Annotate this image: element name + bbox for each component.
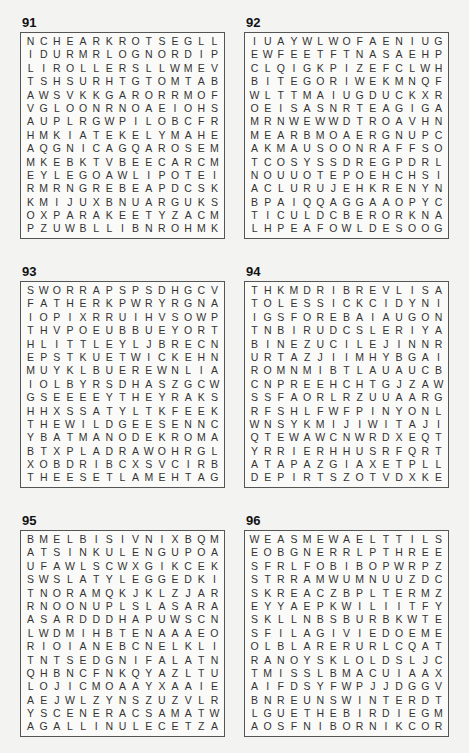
grid-letter: P bbox=[274, 471, 287, 484]
grid-letter: T bbox=[142, 405, 155, 418]
grid-letter: T bbox=[24, 75, 37, 88]
grid-letter: N bbox=[274, 115, 287, 128]
grid-letter: N bbox=[261, 378, 274, 391]
grid-letter: H bbox=[432, 62, 445, 75]
grid-letter: A bbox=[274, 129, 287, 142]
grid-letter: T bbox=[379, 533, 392, 546]
grid-letter: Z bbox=[340, 471, 353, 484]
grid-letter: F bbox=[90, 667, 103, 680]
grid-letter: M bbox=[314, 573, 327, 586]
grid-letter: Y bbox=[142, 667, 155, 680]
grid-letter: Y bbox=[103, 694, 116, 707]
grid-letter: Z bbox=[406, 378, 419, 391]
grid-letter: M bbox=[248, 129, 261, 142]
grid-letter: R bbox=[77, 115, 90, 128]
grid-letter: L bbox=[116, 600, 129, 613]
grid-letter: L bbox=[208, 35, 221, 48]
grid-letter: E bbox=[327, 169, 340, 182]
grid-letter: J bbox=[366, 680, 379, 693]
grid-letter: E bbox=[90, 471, 103, 484]
grid-letter: R bbox=[182, 445, 195, 458]
grid-letter: W bbox=[248, 89, 261, 102]
grid-letter: I bbox=[63, 311, 76, 324]
grid-letter: Y bbox=[314, 680, 327, 693]
grid-letter: S bbox=[287, 667, 300, 680]
grid-letter: A bbox=[90, 209, 103, 222]
puzzle-number: 94 bbox=[246, 263, 449, 281]
grid-letter: A bbox=[182, 680, 195, 693]
grid-letter: T bbox=[90, 156, 103, 169]
grid-letter: G bbox=[287, 546, 300, 559]
grid-letter: S bbox=[274, 720, 287, 733]
grid-letter: I bbox=[432, 351, 445, 364]
grid-letter: U bbox=[103, 364, 116, 377]
grid-letter: I bbox=[116, 533, 129, 546]
letter-grid: BMELBISIVNIXBQMATSINKULENGUPOAUFAWLSCWXG… bbox=[20, 530, 225, 737]
grid-letter: L bbox=[116, 573, 129, 586]
grid-letter: R bbox=[77, 458, 90, 471]
grid-letter: Y bbox=[24, 431, 37, 444]
grid-letter: U bbox=[90, 351, 103, 364]
grid-letter: X bbox=[50, 405, 63, 418]
grid-letter: I bbox=[392, 707, 405, 720]
grid-letter: Z bbox=[406, 573, 419, 586]
grid-letter: P bbox=[432, 48, 445, 61]
grid-letter: U bbox=[419, 35, 432, 48]
grid-letter: E bbox=[432, 546, 445, 559]
grid-letter: Y bbox=[103, 573, 116, 586]
grid-letter: D bbox=[77, 613, 90, 626]
grid-letter: Q bbox=[248, 431, 261, 444]
grid-letter: S bbox=[327, 156, 340, 169]
grid-letter: W bbox=[142, 445, 155, 458]
grid-letter: O bbox=[50, 284, 63, 297]
grid-letter: A bbox=[50, 720, 63, 733]
grid-letter: D bbox=[301, 284, 314, 297]
grid-letter: L bbox=[314, 667, 327, 680]
grid-letter: M bbox=[301, 533, 314, 546]
grid-letter: A bbox=[37, 297, 50, 310]
grid-letter: S bbox=[142, 458, 155, 471]
grid-letter: E bbox=[142, 431, 155, 444]
grid-letter: B bbox=[155, 338, 168, 351]
grid-letter: A bbox=[90, 431, 103, 444]
grid-letter: Y bbox=[155, 391, 168, 404]
grid-letter: R bbox=[168, 297, 181, 310]
grid-letter: I bbox=[287, 62, 300, 75]
grid-letter: X bbox=[406, 471, 419, 484]
grid-letter: O bbox=[208, 627, 221, 640]
grid-letter: A bbox=[419, 667, 432, 680]
grid-letter: A bbox=[406, 667, 419, 680]
grid-letter: C bbox=[155, 156, 168, 169]
grid-letter: R bbox=[406, 587, 419, 600]
grid-letter: R bbox=[366, 115, 379, 128]
grid-letter: T bbox=[116, 391, 129, 404]
grid-letter: J bbox=[419, 654, 432, 667]
grid-letter: A bbox=[50, 560, 63, 573]
grid-letter: X bbox=[155, 680, 168, 693]
grid-letter: L bbox=[77, 62, 90, 75]
grid-letter: S bbox=[50, 546, 63, 559]
grid-letter: D bbox=[182, 48, 195, 61]
grid-letter: L bbox=[129, 338, 142, 351]
grid-letter: O bbox=[155, 48, 168, 61]
grid-letter: H bbox=[392, 546, 405, 559]
grid-letter: T bbox=[314, 169, 327, 182]
grid-letter: C bbox=[274, 209, 287, 222]
grid-letter: O bbox=[261, 169, 274, 182]
grid-letter: S bbox=[50, 573, 63, 586]
grid-letter: O bbox=[261, 546, 274, 559]
grid-letter: K bbox=[77, 89, 90, 102]
grid-letter: A bbox=[195, 471, 208, 484]
grid-letter: A bbox=[432, 209, 445, 222]
grid-letter: I bbox=[37, 640, 50, 653]
grid-letter: P bbox=[129, 284, 142, 297]
grid-letter: F bbox=[274, 391, 287, 404]
grid-letter: R bbox=[90, 48, 103, 61]
grid-letter: R bbox=[406, 694, 419, 707]
grid-letter: G bbox=[261, 707, 274, 720]
grid-letter: F bbox=[195, 115, 208, 128]
grid-letter: V bbox=[24, 102, 37, 115]
grid-letter: E bbox=[24, 351, 37, 364]
grid-letter: T bbox=[248, 156, 261, 169]
grid-letter: F bbox=[168, 405, 181, 418]
